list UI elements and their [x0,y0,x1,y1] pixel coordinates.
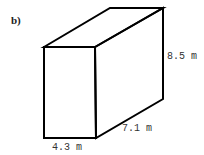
depth-dimension-label: 7.1 m [122,124,152,134]
part-label: b) [11,15,21,26]
width-dimension-label: 4.3 m [52,143,82,153]
front-face [44,47,96,138]
figure-canvas [0,0,204,155]
rectangular-prism-diagram [0,0,204,155]
height-dimension-label: 8.5 m [167,52,197,62]
right-face [95,8,163,138]
